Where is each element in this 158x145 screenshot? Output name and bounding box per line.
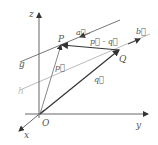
- point-p-label: P: [57, 34, 65, 44]
- direction-b-arrow: [128, 39, 140, 44]
- direction-b-label: b⃗: [136, 27, 146, 36]
- y-axis-label: y: [135, 120, 142, 130]
- line-g-label: g: [19, 59, 25, 69]
- vector-p-label: p⃗: [55, 63, 65, 72]
- line-h-label: h: [18, 86, 24, 96]
- vector-diagram: z y x O P Q g h a⃗ b⃗ p⃗ q⃗ p⃗ - q⃗: [0, 0, 158, 145]
- point-q-label: Q: [119, 54, 127, 64]
- z-axis-label: z: [28, 9, 34, 19]
- direction-a-label: a⃗: [76, 28, 86, 37]
- vector-q: [40, 50, 119, 114]
- vector-q-label: q⃗: [94, 75, 104, 84]
- origin-label: O: [42, 118, 50, 128]
- x-axis-label: x: [24, 130, 29, 140]
- vector-p-minus-q-label: p⃗ - q⃗: [90, 37, 118, 46]
